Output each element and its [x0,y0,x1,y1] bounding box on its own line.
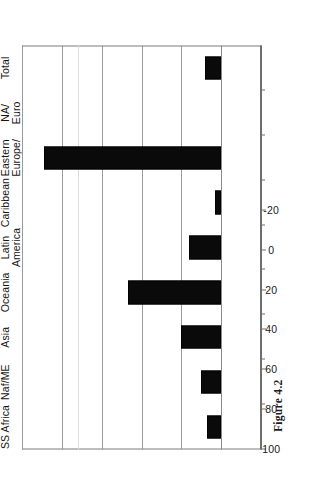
figure-page: SS AfricaNaf/MEAsiaOceaniaLatin AmericaC… [0,0,310,479]
bar [207,415,221,438]
category-label: Naf/ME [0,364,11,400]
value-tick-label: 0 [268,245,274,256]
value-tick-label: 100 [262,444,280,455]
chart-plot-frame [22,45,261,449]
category-label: Oceania [0,272,11,312]
bar [44,146,221,169]
bars-group [22,45,261,449]
bar [205,56,221,79]
category-label: Latin America [0,227,22,266]
value-tick-label: 40 [265,324,277,335]
bar [201,370,221,393]
rotated-chart-container: SS AfricaNaf/MEAsiaOceaniaLatin AmericaC… [0,0,310,479]
category-label: SS Africa [0,405,11,449]
category-axis-labels: SS AfricaNaf/MEAsiaOceaniaLatin AmericaC… [0,45,22,449]
bar [128,280,222,303]
bar [215,190,221,213]
category-label: Caribbean [0,177,11,226]
bar [181,325,221,348]
value-axis-line [261,45,262,449]
category-label: Total [0,56,11,79]
figure-caption: Figure 4.2 [272,379,284,432]
category-label: NA/ Euro [0,101,22,124]
category-label: Asia [0,326,11,347]
value-tick-label: -20 [263,205,279,216]
bar [189,235,221,258]
value-tick-mark [261,249,266,250]
value-tick-label: 20 [265,284,277,295]
value-tick-label: 60 [265,364,277,375]
